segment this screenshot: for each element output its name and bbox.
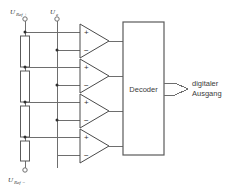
comparator-3-minus-label: − xyxy=(84,116,89,125)
resistor-r2 xyxy=(21,71,30,102)
input-signal-rail xyxy=(55,17,80,168)
junction-dot-vin2 xyxy=(56,84,59,87)
resistor-r3 xyxy=(21,106,30,137)
resistor-r4 xyxy=(21,141,30,161)
comparator-1-plus-label: + xyxy=(84,28,89,37)
junction-dot-tap1 xyxy=(24,31,27,34)
vref-plus-sublabel: Ref + xyxy=(15,12,27,17)
junction-dot-tap2 xyxy=(24,66,27,69)
comparator-1-minus-label: − xyxy=(84,46,89,55)
comparator-2: + − xyxy=(80,59,123,93)
vin-sublabel: e xyxy=(56,12,59,17)
comparator-3: + − xyxy=(80,94,123,128)
output-arrow-lower-edge xyxy=(175,89,188,95)
decoder-label: Decoder xyxy=(129,85,158,94)
comparator-4-plus-label: + xyxy=(84,133,89,142)
comparator-2-plus-label: + xyxy=(84,63,89,72)
digital-output: digitaler Ausgang xyxy=(164,79,222,98)
output-arrow-upper-edge xyxy=(175,83,188,89)
comparator-3-plus-label: + xyxy=(84,98,89,107)
comparator-2-minus-label: − xyxy=(84,81,89,90)
schematic-canvas: + − + − + − + − Decoder xyxy=(0,0,232,189)
junction-dot-vin1 xyxy=(56,49,59,52)
output-label-line2: Ausgang xyxy=(192,89,222,98)
terminal-labels: U Ref + U e U Ref − xyxy=(8,8,59,185)
junction-dot-vin3 xyxy=(56,119,59,122)
reference-ladder xyxy=(21,17,30,172)
comparator-1: + − xyxy=(80,24,123,58)
junction-dot-tap4 xyxy=(24,136,27,139)
vref-plus-terminal-circle xyxy=(23,17,27,21)
flash-adc-diagram: + − + − + − + − Decoder xyxy=(0,0,232,189)
vref-minus-terminal-circle xyxy=(23,168,27,172)
vref-minus-sublabel: Ref − xyxy=(13,180,25,185)
comparator-4-minus-label: − xyxy=(84,151,89,160)
output-label-line1: digitaler xyxy=(192,79,219,88)
comparator-4: + − xyxy=(80,129,123,163)
junction-dot-tap3 xyxy=(24,101,27,104)
resistor-r1 xyxy=(21,36,30,67)
decoder-block: Decoder xyxy=(123,22,164,155)
vin-terminal-circle xyxy=(55,17,59,21)
